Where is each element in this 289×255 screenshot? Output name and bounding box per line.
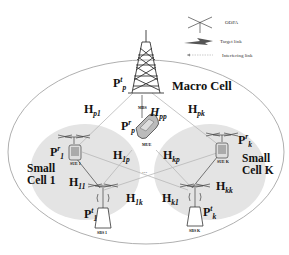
channel-H11: H11 xyxy=(69,176,85,188)
small-cell-1-line2: Cell 1 xyxy=(27,174,55,186)
small-cell-1-label: Small Cell 1 xyxy=(27,162,55,186)
channel-Hkk: Hkk xyxy=(216,180,233,192)
sue-k-label: SUE K xyxy=(217,160,229,164)
legend-target-link-label: Target link xyxy=(220,39,242,44)
small-cell-k-label: Small Cell K xyxy=(242,152,274,176)
legend-interfering-link-label: Interfering link xyxy=(222,53,252,58)
power-Ppt: Ptp xyxy=(113,77,126,89)
power-P1r: Pr1 xyxy=(50,146,64,158)
channel-Hpk: Hpk xyxy=(188,103,205,115)
power-Ppr: Prp xyxy=(121,120,135,132)
power-Pkr: Prk xyxy=(238,134,252,146)
mbs-label: MBS xyxy=(138,106,147,110)
small-cell-k-line1: Small xyxy=(242,152,274,164)
channel-Hkp: Hkp xyxy=(163,149,180,161)
legend-interfering-link-icon xyxy=(187,54,213,57)
macro-cell-label: Macro Cell xyxy=(172,80,232,93)
channel-H1k: H1k xyxy=(126,192,143,204)
legend-odpa-icon xyxy=(188,17,212,33)
macro-tower-icon xyxy=(128,30,164,93)
channel-Hpp: Hpp xyxy=(150,106,167,118)
sbs-k-label: SBS K xyxy=(189,229,200,233)
power-P1t: Pt1 xyxy=(84,208,97,220)
ellipsis-label: ... xyxy=(142,168,147,175)
mue-label: MUE xyxy=(142,143,151,147)
sue-1-label: SUE 1 xyxy=(70,162,81,166)
sbs-1-base-icon xyxy=(95,208,111,228)
channel-Hp1: Hp1 xyxy=(84,103,101,115)
channel-Hk1: Hk1 xyxy=(162,192,179,204)
sbs-k-base-icon xyxy=(187,207,203,226)
legend-target-link-icon xyxy=(184,38,213,45)
sbs-1-label: SBS 1 xyxy=(97,231,107,235)
small-cell-1-line1: Small xyxy=(27,162,55,174)
legend-odpa-label: ODPA xyxy=(225,20,238,25)
network-diagram xyxy=(0,0,289,255)
power-Pkt: Ptk xyxy=(203,206,216,218)
small-cell-k-line2: Cell K xyxy=(242,164,274,176)
channel-H1p: H1p xyxy=(113,149,130,161)
